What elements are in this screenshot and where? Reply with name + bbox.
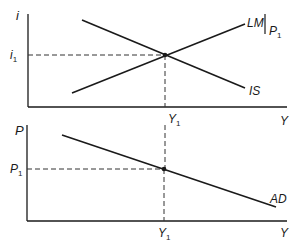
top-panel: i Y i1 Y1 LM P1 IS [10, 8, 289, 128]
is-lm-ad-diagram: i Y i1 Y1 LM P1 IS P Y P1 Y1 AD [0, 0, 301, 247]
top-equilibrium-point [163, 53, 168, 58]
p1-label: P1 [10, 162, 23, 178]
top-y1-label: Y1 [168, 112, 181, 128]
lm-label: LM [247, 16, 264, 30]
bottom-x-axis-label: Y [280, 226, 289, 240]
i1-label: i1 [10, 48, 18, 64]
top-y-axis-label: i [16, 8, 20, 23]
bottom-y1-label: Y1 [158, 226, 171, 242]
ad-curve [62, 135, 276, 207]
bottom-y-axis-label: P [15, 123, 24, 138]
lm-curve [72, 24, 245, 93]
bottom-panel: P Y P1 Y1 AD [10, 123, 289, 242]
is-label: IS [249, 84, 260, 98]
lm-p1-label: P1 [269, 24, 282, 40]
ad-label: AD [269, 192, 287, 206]
bottom-equilibrium-point [162, 167, 167, 172]
top-x-axis-label: Y [280, 114, 289, 128]
